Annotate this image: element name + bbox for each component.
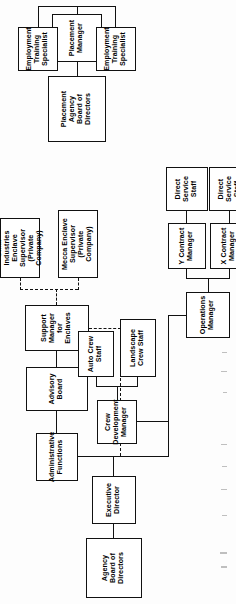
edge-crewdev-to-landscape	[137, 377, 138, 387]
edge-placementmanager-stub	[77, 6, 78, 14]
edge-exec-trunk-horizontal	[168, 315, 169, 457]
node-y-contract-manager: Y Contract Manager	[168, 223, 206, 269]
node-employment-training-specialist-2: Employment Training Specialist	[96, 27, 136, 71]
edge-trunk-to-crewdev	[137, 421, 169, 422]
node-line-2: Functions	[57, 432, 65, 483]
node-line-3: Staff	[234, 176, 236, 202]
edge-placementmanager-to-ets1	[38, 6, 39, 28]
node-line-2: Board of Directors	[110, 541, 126, 595]
node-line-2: Board of Directors	[77, 79, 93, 139]
node-omar-industries-enclave-supervisor: Omar Industries Enclave Supervisor (Priv…	[0, 218, 40, 278]
edge-exec-trunk-vertical	[113, 456, 169, 457]
org-chart-canvas: Agency Board of Directors Executive Dire…	[0, 0, 236, 604]
node-line-1: Placement Agency	[61, 79, 77, 139]
node-line-2: Manager	[187, 228, 195, 265]
edge-dashed-to-mecca	[78, 278, 79, 290]
node-line-3: Specialist	[120, 27, 128, 71]
edge-xcontract-directservice	[229, 211, 230, 223]
edge-trunk-to-operations	[168, 315, 186, 316]
edge-operations-to-xcontract	[229, 269, 230, 279]
scan-speck	[222, 515, 227, 516]
node-line-1: Support Manager	[41, 308, 57, 348]
edge-exec-stub-right	[113, 456, 114, 476]
org-chart-page: Agency Board of Directors Executive Dire…	[0, 0, 236, 604]
node-line-3: (Private Company)	[78, 213, 94, 275]
edge-exec-to-admin-vertical	[78, 456, 114, 457]
edge-placementboard-placementmanager	[77, 62, 78, 76]
edge-crewdev-vertical	[96, 386, 138, 387]
node-line-2: Director	[114, 483, 122, 517]
edge-operations-stub	[208, 278, 209, 292]
node-line-2: Crew Staff	[138, 329, 146, 367]
node-auto-crew-staff: Auto Crew Staff	[78, 331, 114, 377]
node-line-2: Manager	[229, 228, 236, 265]
node-operations-manager: Operations Manager	[186, 292, 230, 338]
scan-speck	[221, 489, 227, 490]
edge-crewdev-stub	[117, 386, 118, 400]
node-crew-development-manager: Crew Development Manager	[97, 400, 137, 444]
scan-speck	[220, 552, 227, 554]
edge-supportmanager-dashed-spine	[89, 328, 121, 329]
scan-speck	[222, 352, 227, 353]
node-executive-director: Executive Director	[92, 476, 136, 524]
node-line-3: (Private Company)	[28, 221, 44, 275]
node-direct-service-staff-y: Direct Service Staff	[166, 167, 208, 211]
edge-agencyboard-execdirector	[113, 524, 114, 538]
edge-placementmanager-to-ets2	[115, 6, 116, 28]
edge-operations-vertical	[186, 278, 230, 279]
edge-placementmanager-vertical	[38, 6, 116, 7]
scan-speck	[221, 371, 227, 372]
node-landscape-crew-staff: Landscape Crew Staff	[120, 319, 156, 377]
scan-speck	[221, 566, 227, 568]
edge-enclave-dashed-vertical	[20, 289, 78, 290]
edge-crewdev-to-autocrew	[96, 377, 97, 387]
node-administrative-functions: Administrative Functions	[36, 433, 78, 481]
node-x-contract-manager: X Contract Manager	[210, 223, 236, 269]
node-employment-training-specialist-1: Employment Training Specialist	[18, 27, 58, 71]
node-line-2: Enclave Supervisor	[12, 221, 28, 275]
edge-supportmanager-enclave-dashed-stub	[56, 289, 57, 305]
node-direct-service-staff-x: Direct Service Staff	[209, 167, 236, 211]
node-agency-board: Agency Board of Directors	[86, 538, 142, 598]
node-placement-manager: Placement Manager	[52, 14, 102, 62]
node-placement-agency-board: Placement Agency Board of Directors	[48, 76, 106, 142]
node-line-2: for Enclaves	[57, 308, 73, 348]
node-mecca-enclave-supervisor: Mecca Enclave Supervisor (Private Compan…	[58, 210, 98, 278]
node-line-3: Staff	[191, 176, 199, 202]
edge-advisoryboard-supportmanager	[56, 351, 57, 367]
rotated-chart-wrapper: Agency Board of Directors Executive Dire…	[0, 0, 236, 604]
edge-operations-to-ycontract	[186, 269, 187, 279]
node-line-2: Manager	[208, 296, 216, 334]
edge-dashed-to-omar	[20, 278, 21, 290]
scan-speck	[222, 466, 227, 467]
edge-ycontract-directservice	[186, 211, 187, 223]
node-line-3: Specialist	[42, 27, 50, 71]
node-line-1: Advisory Board	[49, 370, 65, 408]
scan-speck	[221, 444, 227, 445]
edge-admin-advisoryboard	[56, 411, 57, 433]
scan-speck	[223, 392, 227, 393]
node-line-3: Manager	[121, 399, 129, 445]
node-line-2: Staff	[96, 336, 104, 372]
node-line-2: Manager	[77, 20, 85, 56]
